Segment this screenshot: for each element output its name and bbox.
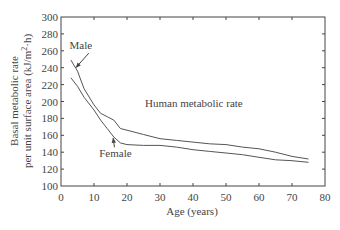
- y-tick-label: 100: [42, 180, 59, 192]
- y-axis-title-line1: Basal metabolic rate: [8, 56, 20, 146]
- x-tick-label: 30: [155, 191, 167, 203]
- y-tick-label: 120: [42, 163, 59, 175]
- series-label-female: Female: [99, 147, 131, 159]
- x-tick-label: 60: [254, 191, 266, 203]
- y-tick-label: 160: [42, 129, 59, 141]
- x-tick-label: 10: [89, 191, 101, 203]
- y-tick-label: 140: [42, 146, 59, 158]
- x-tick-label: 40: [188, 191, 200, 203]
- x-axis-title: Age (years): [166, 205, 218, 218]
- series-line-male: [71, 60, 309, 159]
- series-label-male: Male: [69, 39, 92, 51]
- metabolic-rate-chart: 0102030405060708010012014016018020022024…: [0, 0, 340, 230]
- y-tick-label: 240: [42, 62, 59, 74]
- chart-annotation: Human metabolic rate: [145, 97, 243, 109]
- x-tick-label: 0: [58, 191, 64, 203]
- x-tick-label: 50: [221, 191, 233, 203]
- x-tick-label: 70: [287, 191, 299, 203]
- y-tick-label: 280: [42, 28, 59, 40]
- y-tick-label: 260: [42, 45, 59, 57]
- y-tick-label: 220: [42, 79, 59, 91]
- y-tick-label: 300: [42, 11, 59, 23]
- y-tick-label: 180: [42, 112, 59, 124]
- y-axis-title-line2: per unit surface area (kJ/m2·h): [20, 34, 34, 168]
- y-tick-label: 200: [42, 96, 59, 108]
- x-tick-label: 80: [320, 191, 332, 203]
- x-tick-label: 20: [122, 191, 134, 203]
